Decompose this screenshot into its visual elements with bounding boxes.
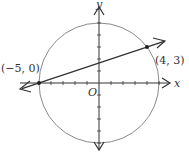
- x-axis-label: x: [174, 77, 181, 90]
- y-axis: [94, 7, 104, 150]
- point-marker: [145, 45, 149, 49]
- coordinate-diagram: (−5, 0) (4, 3) x y O: [0, 0, 189, 153]
- y-axis-label: y: [95, 0, 103, 11]
- point-label: (−5, 0): [1, 62, 40, 75]
- point-label: (4, 3): [155, 54, 185, 67]
- origin-label: O: [88, 86, 97, 99]
- point-marker: [37, 81, 41, 85]
